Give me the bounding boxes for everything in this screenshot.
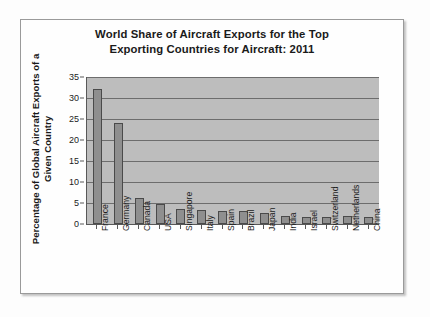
y-tick-label-5: 5: [74, 198, 79, 208]
bar-slot-usa: [150, 77, 171, 224]
bar-slot-china: [358, 77, 379, 224]
x-slot-china: China: [357, 225, 378, 307]
x-tick-mark-israel: [305, 225, 306, 229]
bar-slot-india: [275, 77, 296, 224]
x-tick-mark-usa: [159, 225, 160, 229]
x-slot-singapore: Singapore: [169, 225, 190, 307]
x-tick-mark-italy: [201, 225, 202, 229]
y-tick-label-30: 30: [69, 93, 79, 103]
y-axis-ticks: 35302520151050: [60, 77, 84, 224]
x-slot-usa: USA: [149, 225, 170, 307]
y-tick-mark-5: [80, 203, 84, 204]
y-tick-mark-0: [80, 224, 84, 225]
x-slot-germany: Germany: [107, 225, 128, 307]
bar-slot-france: [87, 77, 108, 224]
x-tick-mark-india: [284, 225, 285, 229]
x-tick-mark-japan: [263, 225, 264, 229]
x-slot-israel: Israel: [295, 225, 316, 307]
y-tick-mark-30: [80, 98, 84, 99]
x-slot-japan: Japan: [253, 225, 274, 307]
x-slot-canada: Canada: [128, 225, 149, 307]
chart-title-line-1: World Share of Aircraft Exports for the …: [95, 28, 329, 40]
y-axis-title-line-1: Percentage of Global Aircraft Exports of…: [30, 54, 41, 245]
y-tick-mark-20: [80, 140, 84, 141]
chart-title: World Share of Aircraft Exports for the …: [44, 27, 380, 56]
x-tick-mark-netherlands: [347, 225, 348, 229]
y-tick-label-15: 15: [69, 156, 79, 166]
y-tick-label-20: 20: [69, 135, 79, 145]
x-tick-mark-china: [368, 225, 369, 229]
bar-slot-italy: [191, 77, 212, 224]
x-tick-mark-brazil: [242, 225, 243, 229]
x-slot-switzerland: Switzerland: [315, 225, 336, 307]
y-axis-title: Percentage of Global Aircraft Exports of…: [30, 42, 54, 257]
x-tick-mark-singapore: [180, 225, 181, 229]
y-tick-mark-10: [80, 182, 84, 183]
bar-slot-japan: [254, 77, 275, 224]
bar-slot-israel: [296, 77, 317, 224]
x-axis-labels: FranceGermanyCanadaUSASingaporeItalySpai…: [86, 225, 378, 307]
y-tick-mark-25: [80, 119, 84, 120]
bar-slot-brazil: [233, 77, 254, 224]
y-tick-mark-15: [80, 161, 84, 162]
x-slot-netherlands: Netherlands: [336, 225, 357, 307]
y-tick-label-35: 35: [69, 72, 79, 82]
x-tick-label-china: China: [372, 209, 382, 231]
x-slot-france: France: [86, 225, 107, 307]
x-tick-mark-spain: [222, 225, 223, 229]
x-tick-mark-germany: [117, 225, 118, 229]
x-slot-india: India: [274, 225, 295, 307]
y-tick-label-25: 25: [69, 114, 79, 124]
bar-slot-spain: [212, 77, 233, 224]
figure-page: World Share of Aircraft Exports for the …: [0, 0, 430, 317]
x-tick-mark-canada: [138, 225, 139, 229]
y-tick-label-10: 10: [69, 177, 79, 187]
chart-title-line-2: Exporting Countries for Aircraft: 2011: [44, 42, 380, 57]
y-axis-title-line-2: Given Country: [42, 42, 54, 257]
y-tick-mark-35: [80, 77, 84, 78]
x-tick-mark-switzerland: [326, 225, 327, 229]
x-slot-brazil: Brazil: [232, 225, 253, 307]
x-slot-italy: Italy: [190, 225, 211, 307]
x-slot-spain: Spain: [211, 225, 232, 307]
y-tick-label-0: 0: [74, 219, 79, 229]
x-tick-mark-france: [96, 225, 97, 229]
